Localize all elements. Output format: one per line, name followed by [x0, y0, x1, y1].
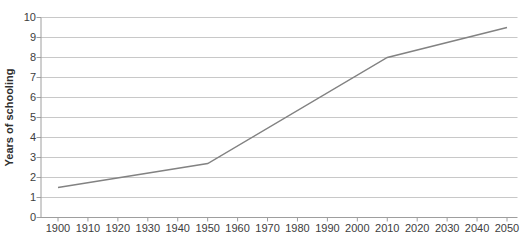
y-tick-label: 0: [30, 211, 36, 223]
x-tick-label: 1980: [285, 222, 309, 234]
x-tick-label: 1970: [255, 222, 279, 234]
y-tick-label: 1: [30, 191, 36, 203]
x-tick-label: 1920: [106, 222, 130, 234]
line-chart: 0123456789101900191019201930194019501960…: [0, 0, 528, 250]
x-tick-label: 2010: [375, 222, 399, 234]
y-tick-label: 6: [30, 91, 36, 103]
x-tick-label: 1900: [46, 222, 70, 234]
x-tick-label: 1930: [136, 222, 160, 234]
y-tick-label: 10: [24, 11, 36, 23]
x-tick-label: 1910: [76, 222, 100, 234]
y-tick-label: 3: [30, 151, 36, 163]
x-tick-label: 2020: [405, 222, 429, 234]
y-axis-title: Years of schooling: [3, 69, 15, 167]
y-tick-label: 5: [30, 111, 36, 123]
x-tick-label: 2040: [465, 222, 489, 234]
x-tick-label: 2050: [495, 222, 519, 234]
x-tick-label: 1940: [165, 222, 189, 234]
series-line: [58, 28, 507, 188]
x-tick-label: 1990: [315, 222, 339, 234]
y-tick-label: 9: [30, 31, 36, 43]
y-tick-label: 2: [30, 171, 36, 183]
y-tick-label: 7: [30, 71, 36, 83]
y-tick-label: 8: [30, 51, 36, 63]
x-tick-label: 2000: [345, 222, 369, 234]
x-tick-label: 1950: [195, 222, 219, 234]
x-tick-label: 2030: [435, 222, 459, 234]
y-tick-label: 4: [30, 131, 36, 143]
line-chart-figure: 0123456789101900191019201930194019501960…: [0, 0, 528, 250]
x-tick-label: 1960: [225, 222, 249, 234]
